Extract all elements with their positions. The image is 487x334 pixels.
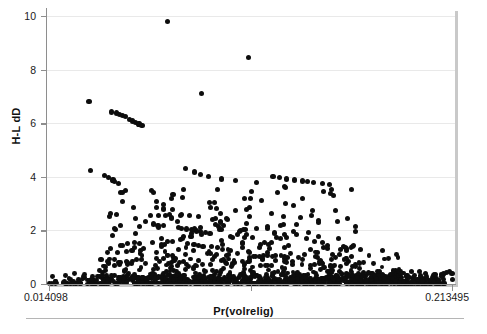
data-point bbox=[327, 182, 332, 187]
data-point bbox=[116, 277, 121, 282]
data-point bbox=[244, 276, 249, 281]
data-point bbox=[304, 236, 309, 241]
data-point bbox=[199, 274, 204, 279]
data-point bbox=[72, 271, 77, 276]
data-point bbox=[175, 263, 180, 268]
data-point bbox=[316, 278, 321, 283]
data-point bbox=[396, 273, 401, 278]
data-point bbox=[122, 268, 127, 273]
data-point bbox=[191, 275, 196, 280]
data-point bbox=[196, 214, 201, 219]
data-point bbox=[161, 256, 166, 261]
data-point bbox=[120, 113, 125, 118]
data-point bbox=[205, 251, 210, 256]
data-point bbox=[209, 244, 214, 249]
data-point bbox=[137, 275, 142, 280]
data-point bbox=[388, 272, 393, 277]
data-point bbox=[89, 277, 94, 282]
data-point bbox=[432, 272, 437, 277]
data-point bbox=[221, 223, 226, 228]
data-point bbox=[320, 276, 325, 281]
data-point bbox=[401, 279, 406, 284]
data-point bbox=[171, 268, 176, 273]
data-point bbox=[151, 221, 156, 226]
data-point bbox=[199, 91, 204, 96]
data-point bbox=[276, 269, 281, 274]
data-point bbox=[88, 168, 93, 173]
data-point bbox=[218, 219, 223, 224]
data-point bbox=[241, 278, 246, 283]
data-point bbox=[169, 196, 174, 201]
data-point bbox=[264, 272, 269, 277]
data-point bbox=[369, 274, 374, 279]
data-point bbox=[197, 279, 202, 284]
data-point bbox=[308, 277, 313, 282]
data-point bbox=[432, 277, 437, 282]
data-point bbox=[233, 278, 238, 283]
data-point bbox=[265, 275, 270, 280]
data-point bbox=[155, 266, 160, 271]
data-point bbox=[394, 271, 399, 276]
data-point bbox=[420, 276, 425, 281]
data-point bbox=[405, 275, 410, 280]
data-point bbox=[356, 276, 361, 281]
data-point bbox=[321, 189, 326, 194]
data-point bbox=[140, 275, 145, 280]
data-point bbox=[163, 249, 168, 254]
data-point bbox=[164, 263, 169, 268]
data-point bbox=[137, 241, 142, 246]
data-point bbox=[246, 277, 251, 282]
data-point bbox=[283, 257, 288, 262]
data-point bbox=[344, 275, 349, 280]
data-point bbox=[270, 273, 275, 278]
data-point bbox=[161, 271, 166, 276]
data-point bbox=[416, 278, 421, 283]
data-point bbox=[165, 239, 170, 244]
data-point bbox=[221, 266, 226, 271]
data-point bbox=[216, 279, 221, 284]
data-point bbox=[148, 272, 153, 277]
data-point bbox=[227, 278, 232, 283]
data-point bbox=[388, 275, 393, 280]
data-point bbox=[394, 276, 399, 281]
data-point bbox=[359, 273, 364, 278]
data-point bbox=[380, 279, 385, 284]
data-point bbox=[195, 278, 200, 283]
data-point bbox=[309, 213, 314, 218]
data-point bbox=[392, 275, 397, 280]
data-point bbox=[245, 278, 250, 283]
data-point bbox=[207, 200, 212, 205]
data-point bbox=[161, 276, 166, 281]
data-point bbox=[105, 250, 110, 255]
data-point bbox=[401, 279, 406, 284]
data-point bbox=[298, 278, 303, 283]
data-point bbox=[171, 274, 176, 279]
data-point bbox=[235, 232, 240, 237]
data-point bbox=[374, 276, 379, 281]
data-point bbox=[208, 262, 213, 267]
data-point bbox=[131, 205, 136, 210]
data-point bbox=[399, 276, 404, 281]
data-point bbox=[370, 275, 375, 280]
data-point bbox=[258, 278, 263, 283]
data-point bbox=[224, 216, 229, 221]
data-point bbox=[177, 277, 182, 282]
data-point bbox=[195, 277, 200, 282]
data-point bbox=[441, 271, 446, 276]
data-point bbox=[394, 278, 399, 283]
data-point bbox=[358, 273, 363, 278]
data-point bbox=[176, 277, 181, 282]
data-point bbox=[321, 276, 326, 281]
data-point bbox=[257, 254, 262, 259]
data-point bbox=[304, 276, 309, 281]
data-point bbox=[265, 224, 270, 229]
data-point bbox=[350, 274, 355, 279]
x-tick-mid bbox=[251, 285, 252, 291]
data-point bbox=[163, 277, 168, 282]
data-point bbox=[353, 276, 358, 281]
data-point bbox=[247, 214, 252, 219]
data-point bbox=[420, 278, 425, 283]
data-point bbox=[331, 276, 336, 281]
data-point bbox=[381, 278, 386, 283]
data-point bbox=[432, 278, 437, 283]
